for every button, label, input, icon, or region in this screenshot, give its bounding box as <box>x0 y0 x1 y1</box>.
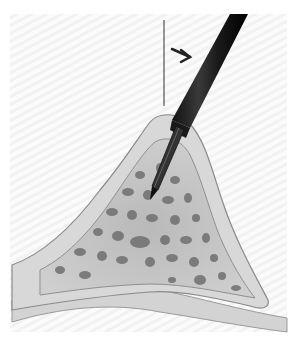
bone-biopsy-illustration <box>0 0 297 344</box>
arrow-icon <box>172 49 190 62</box>
